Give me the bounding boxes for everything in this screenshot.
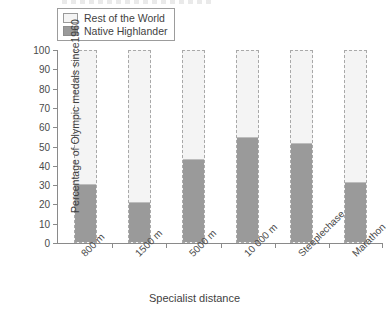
y-axis-tick-label: 30 xyxy=(39,180,50,191)
y-axis-tick xyxy=(53,204,58,205)
bar-group[interactable] xyxy=(344,50,367,243)
bar-group[interactable] xyxy=(128,50,151,243)
bar-segment-rest-of-the-world[interactable] xyxy=(290,50,313,243)
y-axis-tick xyxy=(53,166,58,167)
y-axis-tick xyxy=(53,185,58,186)
y-axis-title-wrap: Percentage of Olympic medals since1960 xyxy=(0,50,16,244)
y-axis-tick xyxy=(53,89,58,90)
bar-segment-native-highlander[interactable] xyxy=(237,137,258,242)
y-axis-title-line: 1960 xyxy=(69,19,81,42)
cropped-caption-sliver xyxy=(62,0,212,4)
bar-segment-rest-of-the-world[interactable] xyxy=(344,50,367,243)
bar-segment-native-highlander[interactable] xyxy=(345,182,366,242)
y-axis-tick xyxy=(53,108,58,109)
plot-area: 0102030405060708090100800 m1500 m5000 m1… xyxy=(58,50,383,243)
y-axis-tick-label: 70 xyxy=(39,102,50,113)
x-axis-minor-tick xyxy=(221,243,222,248)
bar-group[interactable] xyxy=(182,50,205,243)
x-axis-minor-tick xyxy=(166,243,167,248)
y-axis-title-line: Percentage of Olympic medals since xyxy=(69,42,81,212)
x-axis-minor-tick xyxy=(112,243,113,248)
y-axis-tick xyxy=(53,69,58,70)
y-axis-tick-label: 20 xyxy=(39,199,50,210)
x-axis-minor-tick xyxy=(275,243,276,248)
x-axis-minor-tick xyxy=(382,243,383,248)
y-axis-title: Percentage of Olympic medals since1960 xyxy=(59,19,91,213)
y-axis-tick xyxy=(53,224,58,225)
y-axis-tick-label: 90 xyxy=(39,64,50,75)
bar-group[interactable] xyxy=(290,50,313,243)
y-axis-tick xyxy=(53,50,58,51)
y-axis-tick-label: 60 xyxy=(39,122,50,133)
y-axis-tick-label: 10 xyxy=(39,218,50,229)
y-axis-tick xyxy=(53,147,58,148)
y-axis-tick xyxy=(53,243,58,244)
chart-root: Rest of the World Native Highlander 0102… xyxy=(0,0,389,314)
y-axis-tick-label: 0 xyxy=(44,238,50,249)
bar-segment-native-highlander[interactable] xyxy=(291,143,312,242)
bar-segment-rest-of-the-world[interactable] xyxy=(128,50,151,243)
bar-segment-rest-of-the-world[interactable] xyxy=(236,50,259,243)
y-axis-tick-label: 40 xyxy=(39,160,50,171)
y-axis-tick-label: 100 xyxy=(33,45,50,56)
bar-group[interactable] xyxy=(236,50,259,243)
y-axis-tick xyxy=(53,127,58,128)
bar-segment-native-highlander[interactable] xyxy=(183,159,204,242)
y-axis-tick-label: 50 xyxy=(39,141,50,152)
bar-segment-rest-of-the-world[interactable] xyxy=(182,50,205,243)
x-axis-title: Specialist distance xyxy=(0,292,389,304)
legend-label-native-highlander: Native Highlander xyxy=(84,26,167,37)
y-axis-tick-label: 80 xyxy=(39,83,50,94)
x-axis-minor-tick xyxy=(329,243,330,248)
legend-label-rest-of-the-world: Rest of the World xyxy=(84,13,165,24)
